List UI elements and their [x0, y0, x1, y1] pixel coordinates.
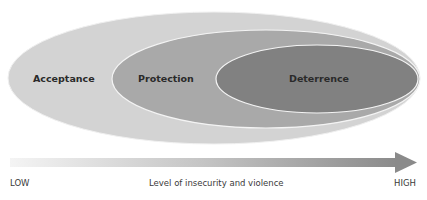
nested-ellipses-diagram: Acceptance Protection Deterrence [0, 0, 427, 200]
deterrence-label: Deterrence [289, 73, 349, 84]
protection-label: Protection [138, 73, 194, 84]
high-label: HIGH [394, 178, 416, 188]
acceptance-label: Acceptance [33, 73, 95, 84]
right-arrow-icon [10, 152, 417, 173]
axis-title: Level of insecurity and violence [149, 178, 284, 188]
low-label: LOW [10, 178, 30, 188]
